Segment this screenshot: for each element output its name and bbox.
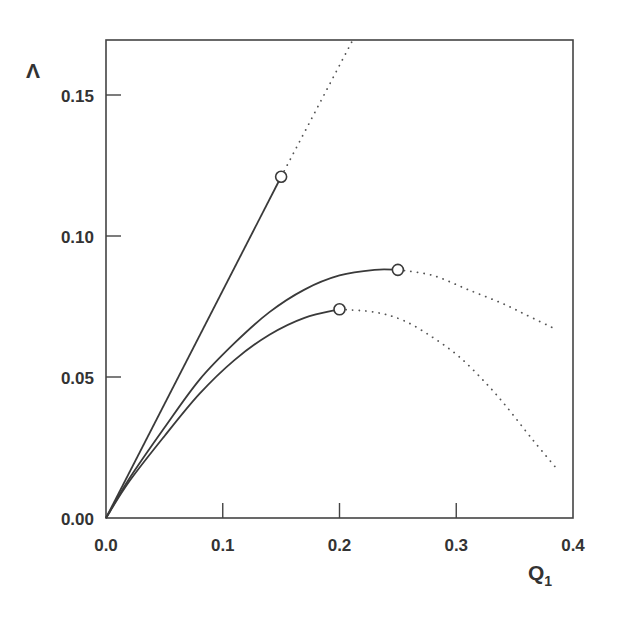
- open-circle-marker: [276, 171, 287, 182]
- y-axis-title: Λ: [26, 59, 40, 82]
- dotted-segment: [281, 39, 353, 177]
- solid-segment: [106, 309, 340, 518]
- solid-segment: [106, 269, 398, 518]
- plot-border: [106, 40, 573, 518]
- y-tick-label: 0.05: [61, 369, 94, 388]
- solid-segment: [106, 177, 281, 518]
- x-axis-title-subscript: 1: [544, 573, 552, 589]
- series-lower-curve: [106, 304, 555, 518]
- data-series: [106, 39, 555, 518]
- open-circle-marker: [334, 304, 345, 315]
- tick-labels: 0.00.10.20.30.40.000.050.100.15: [61, 87, 585, 555]
- x-tick-label: 0.4: [561, 536, 585, 555]
- x-tick-label: 0.2: [328, 536, 352, 555]
- x-axis-title: Q1: [528, 561, 552, 589]
- axis-ticks: [106, 95, 456, 518]
- y-tick-label: 0.10: [61, 228, 94, 247]
- dotted-segment: [398, 270, 556, 329]
- chart-canvas: 0.00.10.20.30.40.000.050.100.15 Λ Q1: [0, 0, 617, 623]
- x-tick-label: 0.3: [444, 536, 468, 555]
- x-tick-label: 0.0: [94, 536, 118, 555]
- x-axis-title-main: Q: [528, 561, 544, 584]
- plot-frame: [106, 40, 573, 518]
- dotted-segment: [340, 309, 556, 467]
- y-tick-label: 0.00: [61, 510, 94, 529]
- y-tick-label: 0.15: [61, 87, 94, 106]
- x-tick-label: 0.1: [211, 536, 235, 555]
- series-upper-line: [106, 39, 354, 518]
- series-middle-curve: [106, 264, 555, 518]
- open-circle-marker: [392, 264, 403, 275]
